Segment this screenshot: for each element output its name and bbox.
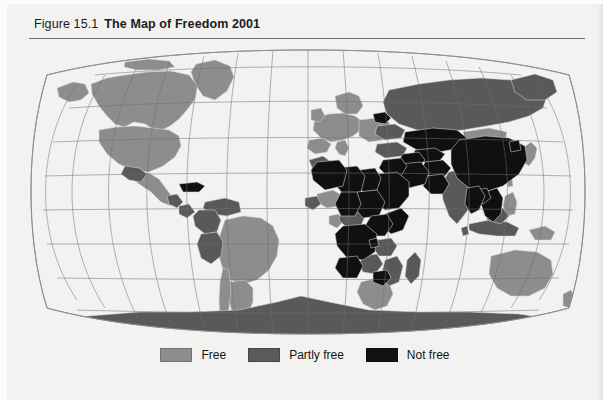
map-legend: Free Partly free Not free [7, 348, 603, 362]
figure-caption: Figure 15.1The Map of Freedom 2001 [34, 17, 260, 31]
legend-swatch-free [160, 348, 192, 362]
region-australia [489, 250, 553, 296]
figure-15-1: Figure 15.1The Map of Freedom 2001 [7, 4, 603, 400]
world-map-svg [29, 44, 587, 339]
scanned-page: Figure 15.1The Map of Freedom 2001 [0, 0, 603, 400]
legend-label-free: Free [201, 348, 226, 362]
figure-number: Figure 15.1 [34, 17, 98, 31]
legend-label-partly-free: Partly free [289, 348, 344, 362]
legend-label-not-free: Not free [407, 348, 450, 362]
title-divider [29, 38, 585, 39]
region-chad [335, 192, 361, 216]
region-rwanda [369, 238, 379, 248]
legend-item-free: Free [160, 348, 226, 362]
legend-swatch-not-free [366, 348, 398, 362]
world-map [29, 44, 587, 339]
region-north-korea [509, 140, 521, 152]
legend-item-partly-free: Partly free [248, 348, 344, 362]
page-title: The Map of Freedom 2001 [104, 17, 260, 31]
legend-item-not-free: Not free [366, 348, 450, 362]
legend-swatch-partly-free [248, 348, 280, 362]
